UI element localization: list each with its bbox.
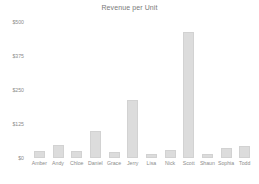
- bar-chart: Revenue per Unit $500$375$250$125$0 Ambe…: [0, 0, 259, 184]
- bar-slot: [105, 22, 124, 158]
- bar[interactable]: [239, 146, 250, 158]
- bar-slot: [179, 22, 198, 158]
- bar-series: [30, 22, 254, 158]
- x-axis-tick-label: Daniel: [86, 160, 105, 174]
- x-axis-tick-label: Grace: [105, 160, 124, 174]
- y-axis-tick-label: $250: [12, 87, 24, 93]
- bar[interactable]: [146, 154, 157, 158]
- bar[interactable]: [183, 32, 194, 158]
- bar[interactable]: [53, 145, 64, 158]
- plot-area: [30, 22, 254, 158]
- bar-slot: [198, 22, 217, 158]
- y-axis-tick-label: $125: [12, 121, 24, 127]
- bar-slot: [142, 22, 161, 158]
- bar-slot: [217, 22, 236, 158]
- y-axis-tick-label: $375: [12, 53, 24, 59]
- bar[interactable]: [165, 150, 176, 158]
- bar-slot: [67, 22, 86, 158]
- bar-slot: [235, 22, 254, 158]
- x-axis-tick-label: Todd: [235, 160, 254, 174]
- x-axis-tick-label: Chloe: [67, 160, 86, 174]
- bar-slot: [86, 22, 105, 158]
- bar[interactable]: [221, 148, 232, 158]
- bar-slot: [49, 22, 68, 158]
- bar-slot: [161, 22, 180, 158]
- bar[interactable]: [34, 151, 45, 158]
- bar-slot: [30, 22, 49, 158]
- bar[interactable]: [202, 154, 213, 158]
- chart-title: Revenue per Unit: [0, 4, 259, 11]
- bar[interactable]: [90, 131, 101, 158]
- x-axis-tick-label: Jerry: [123, 160, 142, 174]
- y-axis-tick-label: $0: [18, 155, 24, 161]
- x-axis-tick-label: Amber: [30, 160, 49, 174]
- bar[interactable]: [71, 151, 82, 158]
- y-axis-tick-label: $500: [12, 19, 24, 25]
- x-axis-tick-label: Lisa: [142, 160, 161, 174]
- bar[interactable]: [109, 152, 120, 158]
- x-axis-tick-label: Sophia: [217, 160, 236, 174]
- y-axis: $500$375$250$125$0: [0, 22, 28, 158]
- bar-slot: [123, 22, 142, 158]
- x-axis-tick-label: Nick: [161, 160, 180, 174]
- x-axis-tick-label: Shaun: [198, 160, 217, 174]
- x-axis-tick-label: Andy: [49, 160, 68, 174]
- bar[interactable]: [127, 100, 138, 158]
- x-axis: AmberAndyChloeDanielGraceJerryLisaNickSc…: [30, 160, 254, 174]
- x-axis-tick-label: Scott: [179, 160, 198, 174]
